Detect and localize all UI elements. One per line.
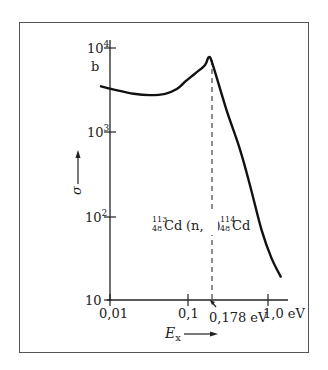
svg-text:48: 48 bbox=[220, 224, 230, 233]
y-unit-label: b bbox=[91, 59, 99, 74]
y-tick-label-100: 102 bbox=[85, 208, 107, 225]
svg-text:Cd: Cd bbox=[232, 218, 250, 233]
x-axis-label: Ex bbox=[164, 325, 181, 343]
chart-svg: 104 b 103 102 10 0,01 0,1 1,0 eV 0,178 e… bbox=[0, 0, 328, 370]
svg-text:Cd: Cd bbox=[164, 218, 182, 233]
cross-section-curve bbox=[101, 57, 281, 277]
x-axis-arrowhead bbox=[210, 332, 218, 337]
y-tick-label-10000: 104 bbox=[87, 39, 110, 56]
resonance-energy-label: 0,178 eV bbox=[209, 310, 268, 325]
x-tick-label-1.0: 1,0 eV bbox=[263, 306, 306, 321]
y-axis-arrowhead bbox=[76, 150, 81, 158]
x-tick-label-0.01: 0,01 bbox=[99, 306, 128, 321]
svg-text:48: 48 bbox=[152, 224, 162, 233]
x-tick-label-0.1: 0,1 bbox=[178, 306, 199, 321]
y-axis-label: σ bbox=[69, 185, 84, 195]
y-tick-label-1000: 103 bbox=[87, 123, 110, 140]
reaction-label: 113 48 Cd (n, γ) 114 48 Cd bbox=[152, 215, 250, 233]
